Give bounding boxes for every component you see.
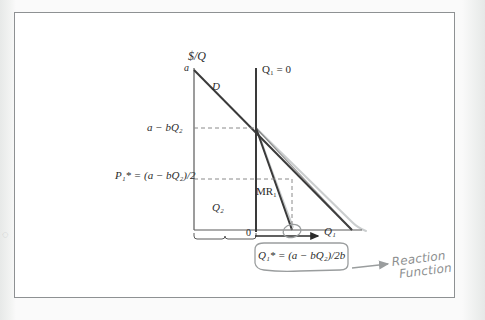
demand-intercept-label: a [184, 63, 189, 73]
figure-page: ◌ [0, 0, 485, 320]
marginal-revenue-label: MR₁ [256, 186, 277, 197]
residual-intercept-label: a − bQ₂ [147, 122, 183, 133]
origin-label: 0 [246, 228, 251, 238]
residual-demand-line [256, 128, 352, 230]
boxed-result-label: Q₁* = (a − bQ₂)/2b [258, 250, 345, 261]
y-axis-label: $/Q [188, 50, 206, 62]
x-axis-label: Q₁ [324, 226, 336, 237]
rival-output-line-label: Q₁ = 0 [262, 64, 291, 75]
demand-curve-label: D [212, 81, 220, 92]
pencil-arrow-to-annotation [352, 264, 388, 268]
rival-quantity-label: Q₂ [212, 202, 224, 213]
equilibrium-price-label: P₁* = (a − bQ₂)/2 [115, 170, 196, 181]
